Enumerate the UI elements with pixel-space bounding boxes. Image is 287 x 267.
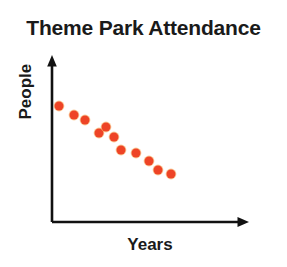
plot-area [0,0,287,267]
y-axis-label: People [17,92,34,120]
x-axis-arrowhead-icon [238,217,250,227]
x-axis-label: Years [52,236,248,253]
data-point [110,133,119,142]
data-point [167,170,176,179]
data-point [154,166,163,175]
data-point [55,102,64,111]
data-point [145,157,154,166]
data-point [117,146,126,155]
data-points-group [54,101,177,180]
axes-group [47,55,249,227]
data-point [81,116,90,125]
data-point [70,111,79,120]
data-point [102,123,111,132]
chart-container: Theme Park Attendance People Years [0,0,287,267]
y-axis-arrowhead-icon [47,55,57,67]
y-axis-label-text: People [17,64,34,120]
data-point [132,149,141,158]
